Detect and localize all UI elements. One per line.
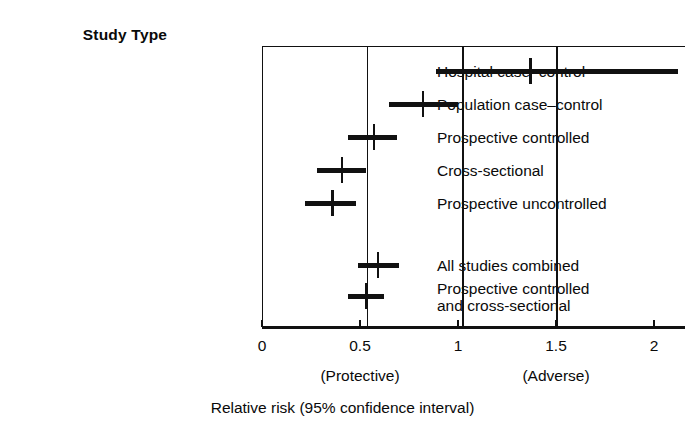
confidence-interval-bar-1	[436, 69, 677, 74]
x-axis-tick-label-0: 0	[232, 337, 292, 355]
x-axis-tick-label-2: 2	[624, 337, 684, 355]
point-estimate-marker-1	[529, 58, 531, 84]
right-reference-line	[556, 46, 558, 327]
point-estimate-marker-5	[331, 190, 333, 216]
x-axis-title: Relative risk (95% confidence interval)	[0, 399, 685, 417]
x-axis-tick-0	[261, 320, 263, 327]
x-axis-tick-1.5	[555, 320, 557, 327]
study-type-column-header: Study Type	[0, 26, 250, 44]
point-estimate-marker-2	[422, 91, 424, 117]
x-axis-tick-2	[653, 320, 655, 327]
x-axis-tick-1	[457, 320, 459, 327]
point-estimate-marker-3	[373, 124, 375, 150]
zone-label-1: (Protective)	[280, 367, 440, 385]
x-axis-tick-label-1.5: 1.5	[526, 337, 586, 355]
point-estimate-marker-4	[341, 157, 343, 183]
adverse-threshold-line	[462, 46, 464, 327]
x-axis-tick-label-0.5: 0.5	[330, 337, 390, 355]
point-estimate-marker-6	[377, 252, 379, 278]
pooled-estimate-line	[367, 46, 369, 327]
plot-frame	[262, 46, 685, 327]
forest-plot-figure: Study Type Hospital case–controlPopulati…	[0, 0, 685, 434]
x-axis-tick-label-1: 1	[428, 337, 488, 355]
x-axis-tick-0.5	[359, 320, 361, 327]
x-axis-line	[262, 327, 685, 329]
zone-label-2: (Adverse)	[476, 367, 636, 385]
point-estimate-marker-7	[365, 283, 367, 309]
